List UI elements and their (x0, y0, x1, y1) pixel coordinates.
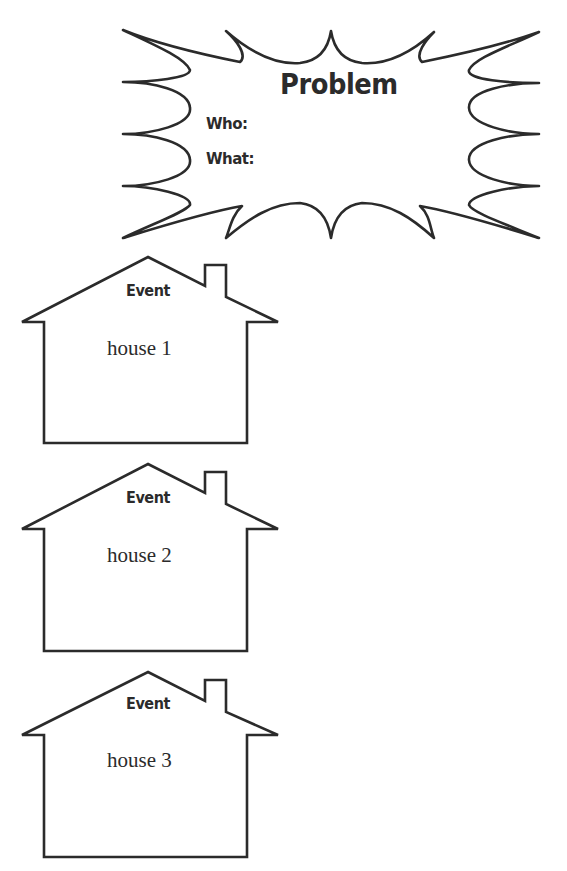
worksheet-canvas (0, 0, 567, 871)
house-1-text: house 1 (107, 336, 172, 361)
problem-title: Problem (280, 68, 398, 101)
problem-burst-shape (123, 30, 539, 238)
house-3-text: house 3 (107, 748, 172, 773)
who-label: Who: (206, 115, 248, 133)
house-2-text: house 2 (107, 543, 172, 568)
house-1-heading: Event (126, 281, 170, 300)
what-label: What: (206, 150, 254, 168)
house-3-heading: Event (126, 694, 170, 713)
house-2-heading: Event (126, 488, 170, 507)
